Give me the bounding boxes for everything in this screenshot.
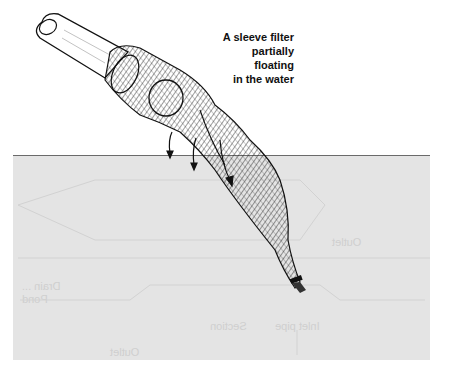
ghost-structure [18, 180, 430, 355]
caption-line-4: in the water [223, 72, 294, 86]
caption-line-1: A sleeve filter [223, 30, 294, 44]
figure-caption: A sleeve filter partially floating in th… [223, 30, 294, 86]
caption-line-2: partially [223, 44, 294, 58]
caption-line-3: floating [223, 58, 294, 72]
